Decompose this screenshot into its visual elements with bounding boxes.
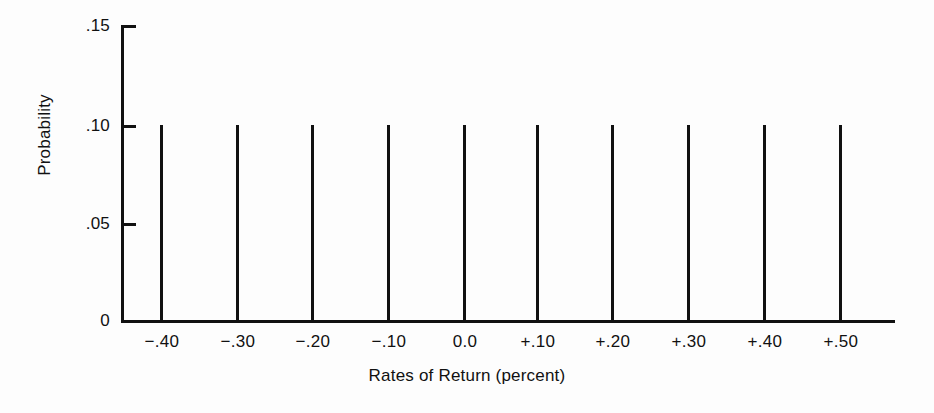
y-tick-mark-015 <box>121 25 136 28</box>
spike-bar <box>611 125 614 320</box>
x-axis-title: Rates of Return (percent) <box>0 366 934 386</box>
spike-bar <box>236 125 239 320</box>
spike-bar <box>839 125 842 320</box>
probability-distribution-chart: .15 .10 .05 0 −.40 −.30 −.20 −.10 0.0 +.… <box>0 0 934 413</box>
y-tick-label-010: .10 <box>58 117 110 134</box>
y-axis-title: Probability <box>35 35 55 235</box>
y-axis-line <box>121 25 124 323</box>
spike-bar <box>536 125 539 320</box>
y-tick-label-015: .15 <box>58 17 110 34</box>
spike-bar <box>463 125 466 320</box>
spike-bar <box>160 125 163 320</box>
y-tick-mark-005 <box>121 223 136 226</box>
spike-bar <box>763 125 766 320</box>
spike-bar <box>687 125 690 320</box>
y-tick-label-0: 0 <box>58 312 110 329</box>
x-tick-label-plus-50: +.50 <box>796 332 886 351</box>
y-tick-label-005: .05 <box>58 215 110 232</box>
y-tick-mark-010 <box>121 125 136 128</box>
spike-bar <box>311 125 314 320</box>
spike-bar <box>387 125 390 320</box>
x-axis-line <box>121 320 895 323</box>
